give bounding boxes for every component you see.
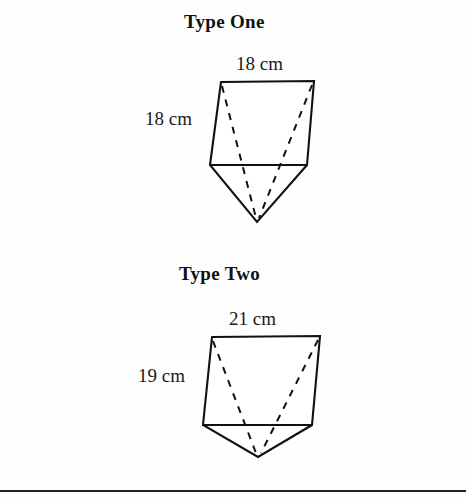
type-two-body <box>203 336 320 457</box>
type-two-body-fill <box>203 336 320 457</box>
bottom-divider <box>0 490 466 492</box>
worksheet-page: Type One 18 cm 18 cm Type Two 21 cm 19 c… <box>0 0 466 499</box>
figure-diagram-type-two <box>0 0 466 499</box>
